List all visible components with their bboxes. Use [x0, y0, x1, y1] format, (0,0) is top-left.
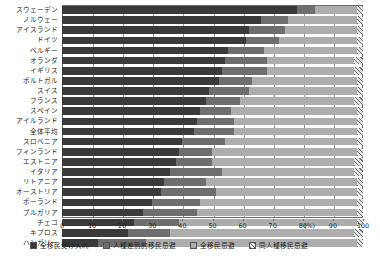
bar-segment-0: [62, 87, 209, 95]
bar-segment-3: [357, 77, 363, 85]
bar-segment-0: [62, 107, 200, 115]
bar-segment-3: [357, 178, 363, 186]
bar-segment-0: [62, 118, 197, 126]
bar-segment-2: [234, 128, 357, 136]
table-row: [62, 167, 363, 177]
bar-segment-3: [354, 168, 363, 176]
stacked-bar: [62, 188, 363, 196]
bar-segment-3: [357, 87, 363, 95]
legend-label: 同人種移民忌避: [259, 240, 308, 250]
y-axis-label: アイルランド: [0, 116, 60, 126]
stacked-bar: [62, 128, 363, 136]
y-axis-label: ベルギー: [0, 46, 60, 56]
bar-segment-0: [62, 67, 222, 75]
bar-segment-1: [152, 199, 200, 207]
x-axis-unit-label: (%): [304, 222, 315, 230]
y-axis-label: チェコ: [0, 218, 60, 228]
table-row: [62, 177, 363, 187]
x-axis-tick-label: 90: [329, 222, 337, 230]
legend-swatch-icon: [190, 242, 197, 249]
chart-legend: 全移民受け入れ人種差別的移民忌避全移民忌避同人種移民忌避: [30, 238, 370, 252]
legend-item[interactable]: 人種差別的移民忌避: [103, 240, 176, 250]
x-axis-tick-label: 20: [118, 222, 126, 230]
bar-segment-2: [267, 67, 354, 75]
y-axis-label: スロベニア: [0, 137, 60, 147]
x-axis-tick-mark: [213, 219, 214, 221]
legend-swatch-icon: [30, 242, 37, 249]
bar-segment-1: [222, 67, 267, 75]
table-row: [62, 147, 363, 157]
table-row: [62, 56, 363, 66]
bar-segment-0: [62, 6, 297, 14]
y-axis-label: イギリス: [0, 66, 60, 76]
bar-segment-1: [228, 47, 264, 55]
x-axis-tick-label: 60: [239, 222, 247, 230]
bar-segment-2: [285, 26, 357, 34]
y-axis-label: イタリア: [0, 167, 60, 177]
legend-item[interactable]: 同人種移民忌避: [249, 240, 308, 250]
table-row: [62, 46, 363, 56]
stacked-bar: [62, 87, 363, 95]
y-axis-label: 全体平均: [0, 127, 60, 137]
bar-segment-0: [62, 128, 194, 136]
x-axis-tick-label: 100: [357, 222, 369, 230]
y-axis-label: キプロス: [0, 228, 60, 238]
table-row: [62, 86, 363, 96]
bar-segment-2: [212, 158, 353, 166]
bar-segment-3: [357, 16, 363, 24]
bar-segment-0: [62, 168, 170, 176]
stacked-bar-chart: スウェーデンノルウェーアイスランドドイツベルギーオランダイギリスポルトガルスイス…: [0, 0, 380, 260]
bar-segment-1: [297, 6, 315, 14]
bar-segment-2: [252, 77, 357, 85]
legend-swatch-icon: [103, 242, 110, 249]
x-axis-tick-mark: [363, 219, 364, 221]
bar-segment-3: [354, 158, 363, 166]
bar-segment-3: [357, 209, 363, 217]
bar-segment-1: [179, 148, 212, 156]
bar-segment-0: [62, 47, 228, 55]
table-row: [62, 106, 363, 116]
bar-segment-0: [62, 199, 152, 207]
table-row: [62, 187, 363, 197]
x-axis-tick-mark: [182, 219, 183, 221]
x-axis-tick-label: 0: [60, 222, 64, 230]
x-axis-tick-mark: [152, 219, 153, 221]
bar-segment-0: [62, 97, 206, 105]
stacked-bar: [62, 97, 363, 105]
bar-segment-3: [357, 107, 363, 115]
stacked-bar: [62, 77, 363, 85]
legend-item[interactable]: 全移民受け入れ: [30, 240, 89, 250]
y-axis-label: ポルトガル: [0, 76, 60, 86]
y-axis-label: スウェーデン: [0, 5, 60, 15]
x-axis-tick-label: 50: [208, 222, 216, 230]
bar-segment-0: [62, 188, 161, 196]
bar-segment-1: [182, 138, 224, 146]
table-row: [62, 76, 363, 86]
bar-segment-2: [249, 87, 357, 95]
x-axis-tick-mark: [62, 219, 63, 221]
stacked-bar: [62, 148, 363, 156]
stacked-bar: [62, 209, 363, 217]
legend-item[interactable]: 全移民忌避: [190, 240, 235, 250]
y-axis-label: ポーランド: [0, 197, 60, 207]
bar-segment-1: [261, 16, 288, 24]
table-row: [62, 116, 363, 126]
x-axis-tick-label: 30: [148, 222, 156, 230]
bar-segment-3: [357, 128, 363, 136]
bar-segment-3: [357, 37, 363, 45]
stacked-bar: [62, 16, 363, 24]
bar-segment-2: [315, 6, 357, 14]
table-row: [62, 15, 363, 25]
bar-segment-1: [143, 209, 197, 217]
table-row: [62, 25, 363, 35]
stacked-bar: [62, 57, 363, 65]
bar-segment-1: [164, 178, 206, 186]
bar-segment-1: [200, 107, 230, 115]
y-axis-label: フィンランド: [0, 147, 60, 157]
bar-segment-2: [206, 178, 357, 186]
stacked-bar: [62, 158, 363, 166]
y-axis-label: オランダ: [0, 56, 60, 66]
bar-segment-0: [62, 178, 164, 186]
table-row: [62, 35, 363, 45]
y-axis-label: アイスランド: [0, 25, 60, 35]
